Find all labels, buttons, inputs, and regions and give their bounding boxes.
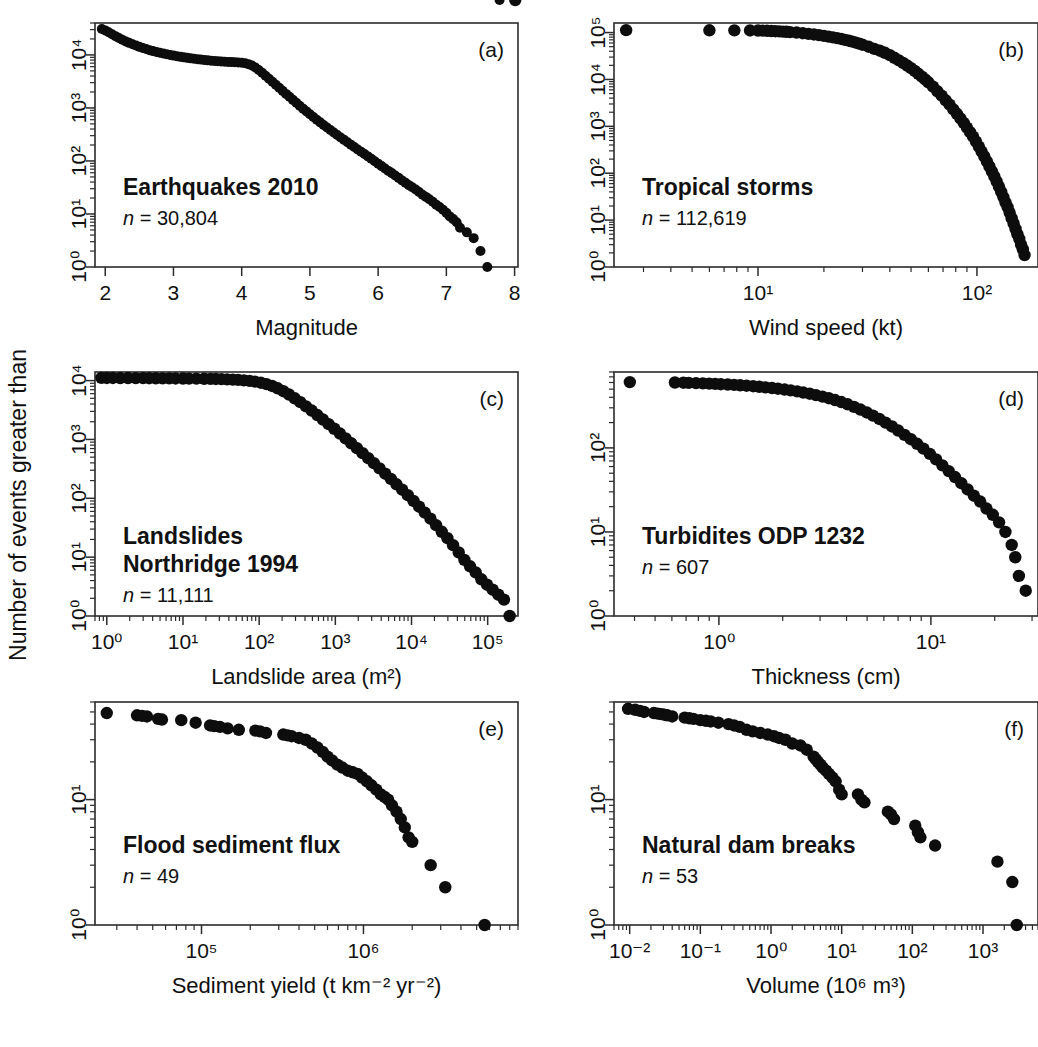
x-tick-label: 10⁻²: [609, 939, 650, 962]
x-tick-label: 10¹: [168, 630, 198, 653]
sample-size-label: n = 30,804: [123, 207, 218, 229]
data-point: [624, 376, 636, 388]
panel-title: Landslides: [123, 523, 243, 549]
caption-remnant: [0, 1021, 1038, 1047]
y-tick-label: 10²: [67, 483, 90, 513]
x-tick-label: 10⁶: [347, 939, 379, 962]
data-point: [703, 24, 715, 36]
data-point: [1018, 249, 1030, 261]
x-tick-label: 10⁴: [395, 630, 427, 653]
data-point: [156, 713, 168, 725]
y-tick-label: 10²: [586, 433, 609, 463]
data-point: [469, 233, 479, 243]
x-tick-label: 7: [441, 281, 453, 304]
panel-id-label: (c): [480, 387, 505, 410]
data-point: [914, 831, 926, 843]
panel-title-line2: Northridge 1994: [123, 551, 298, 577]
x-tick-label: 5: [304, 281, 316, 304]
x-tick-label: 2: [99, 281, 111, 304]
y-tick-label: 10⁴: [67, 39, 90, 71]
data-point: [999, 526, 1011, 538]
sample-size-label: n = 53: [642, 865, 698, 887]
panel-id-label: (e): [478, 717, 504, 740]
x-tick-label: 10³: [968, 939, 998, 962]
data-point: [888, 813, 900, 825]
x-tick-label: 10²: [897, 939, 927, 962]
x-axis-label: Magnitude: [255, 315, 358, 340]
data-point: [1020, 585, 1032, 597]
panel-title: Turbidites ODP 1232: [642, 523, 865, 549]
panel-id-label: (b): [998, 38, 1024, 61]
data-point: [620, 24, 632, 36]
y-tick-label: 10⁰: [586, 600, 609, 631]
x-tick-label: 10¹: [826, 939, 856, 962]
x-tick-label: 10¹: [916, 630, 946, 653]
sample-size-label: n = 112,619: [642, 207, 747, 229]
data-point: [858, 796, 870, 808]
x-tick-label: 4: [236, 281, 248, 304]
data-point: [835, 788, 847, 800]
data-point: [439, 881, 451, 893]
x-tick-label: 10²: [244, 630, 274, 653]
data-point: [175, 714, 187, 726]
y-tick-label: 10⁰: [67, 251, 90, 282]
figure-y-axis-label: Number of events greater than: [5, 349, 31, 661]
x-axis-label: Volume (10⁶ m³): [746, 973, 905, 998]
x-tick-label: 10²: [962, 281, 992, 304]
panel-title: Tropical storms: [642, 174, 813, 200]
y-tick-label: 10¹: [586, 784, 609, 814]
y-tick-label: 10⁴: [586, 63, 609, 95]
panel-title: Earthquakes 2010: [123, 174, 319, 200]
data-point: [424, 859, 436, 871]
x-tick-label: 8: [509, 281, 521, 304]
y-tick-label: 10²: [67, 146, 90, 176]
sample-size-label: n = 11,111: [123, 584, 214, 606]
data-point: [666, 710, 678, 722]
x-axis-label: Thickness (cm): [751, 664, 900, 689]
data-point: [406, 836, 418, 848]
y-tick-label: 10³: [67, 93, 90, 123]
panel-id-label: (d): [998, 387, 1024, 410]
data-point: [498, 593, 510, 605]
x-tick-label: 10⁰: [91, 630, 122, 653]
data-point: [478, 919, 490, 931]
data-point: [1011, 919, 1023, 931]
y-tick-label: 10⁰: [67, 600, 90, 631]
y-tick-label: 10⁰: [586, 251, 609, 282]
figure-container: Number of events greater than 10⁰10¹10²1…: [0, 0, 1038, 1047]
data-point: [929, 839, 941, 851]
y-tick-label: 10¹: [586, 517, 609, 547]
data-point: [233, 724, 245, 736]
y-tick-label: 10¹: [586, 205, 609, 235]
y-tick-label: 10⁴: [67, 364, 90, 396]
sample-size-label: n = 49: [123, 865, 179, 887]
x-tick-label: 6: [372, 281, 384, 304]
data-point: [189, 717, 201, 729]
x-tick-label: 10⁰: [703, 630, 734, 653]
data-point: [1013, 570, 1025, 582]
y-tick-label: 10³: [67, 424, 90, 454]
x-tick-label: 3: [168, 281, 180, 304]
data-point: [503, 610, 515, 622]
y-tick-label: 10¹: [67, 784, 90, 814]
data-point: [991, 855, 1003, 867]
sample-size-label: n = 607: [642, 556, 709, 578]
x-tick-label: 10⁵: [185, 939, 217, 962]
data-point: [221, 722, 233, 734]
panel-id-label: (a): [478, 38, 504, 61]
y-tick-label: 10¹: [67, 199, 90, 229]
panel-id-label: (f): [1004, 717, 1024, 740]
panel-title: Natural dam breaks: [642, 832, 855, 858]
y-tick-label: 10⁰: [586, 909, 609, 940]
data-point: [101, 707, 113, 719]
y-tick-label: 10⁰: [67, 909, 90, 940]
data-point: [475, 246, 485, 256]
data-point: [1009, 551, 1021, 563]
x-axis-label: Landslide area (m²): [211, 664, 402, 689]
multi-panel-scatter-figure: Number of events greater than 10⁰10¹10²1…: [0, 0, 1038, 1047]
x-tick-label: 10³: [320, 630, 350, 653]
x-axis-label: Wind speed (kt): [749, 315, 903, 340]
y-tick-label: 10¹: [67, 542, 90, 572]
x-tick-label: 10¹: [743, 281, 773, 304]
y-tick-label: 10⁵: [586, 17, 609, 49]
